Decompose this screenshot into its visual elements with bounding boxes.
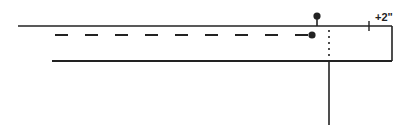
offset-label: +2" (375, 11, 393, 23)
lollipop-dot-icon (313, 12, 320, 19)
diagram-canvas: +2" (0, 0, 418, 130)
moving-dot-icon (308, 31, 315, 38)
